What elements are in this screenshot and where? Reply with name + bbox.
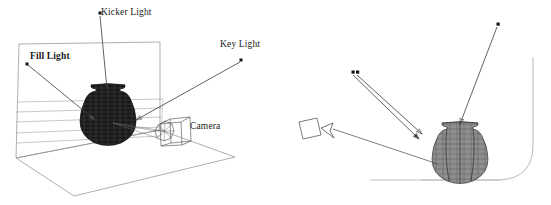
label-fill-light: Fill Light — [30, 52, 70, 62]
kicker-light-arrow — [100, 16, 107, 89]
figure-svg — [0, 0, 551, 205]
key-light-source-marker — [497, 23, 500, 26]
lighting-setup-figure: Kicker Light Fill Light Key Light Camera — [0, 0, 551, 205]
left-scene — [16, 12, 243, 197]
double-light-source-marker-2 — [356, 71, 359, 74]
label-kicker-light: Kicker Light — [101, 8, 152, 18]
camera-sight-line — [333, 129, 438, 164]
key-light-source-marker — [240, 59, 243, 62]
key-light-arrow — [460, 27, 497, 124]
wireframe-vase — [428, 118, 494, 188]
fill-light-arrow — [353, 75, 419, 139]
fill-light-arrow — [28, 65, 95, 120]
label-key-light: Key Light — [220, 40, 260, 50]
kicker-light-arrow — [357, 75, 422, 134]
camera-lens-arrowhead — [321, 123, 334, 138]
label-camera: Camera — [190, 122, 220, 132]
key-light-arrow — [136, 62, 240, 120]
double-light-source-marker — [352, 71, 355, 74]
right-scene — [299, 23, 533, 189]
camera-box — [299, 118, 321, 139]
